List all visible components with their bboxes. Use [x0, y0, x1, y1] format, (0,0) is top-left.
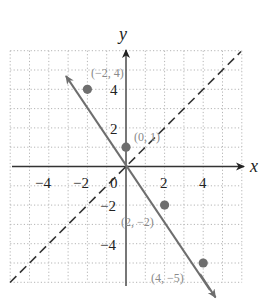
point-4-neg5	[199, 258, 208, 267]
tick-y-neg4: −4	[100, 237, 116, 253]
tick-x-neg4: −4	[35, 175, 51, 191]
solid-line-lower-arrow	[200, 274, 216, 298]
tick-x-neg2: −2	[73, 175, 89, 191]
tick-y-2: 2	[110, 121, 118, 137]
label-point-0-1: (0, 1)	[134, 130, 160, 144]
coordinate-plane-figure: y x −4 −2 0 2 4 4 2 −2 −4 (−2, 4) (0, 1)…	[0, 0, 268, 302]
x-axis-label: x	[249, 156, 258, 176]
tick-y-4: 4	[110, 82, 118, 98]
graph-canvas: y x −4 −2 0 2 4 4 2 −2 −4 (−2, 4) (0, 1)…	[0, 0, 268, 302]
label-point-neg2-4: (−2, 4)	[91, 66, 124, 80]
label-point-2-neg2: (2, −2)	[121, 215, 154, 229]
y-axis-label: y	[117, 24, 127, 44]
tick-x-4: 4	[199, 175, 207, 191]
point-0-1	[121, 143, 130, 152]
tick-y-neg2: −2	[100, 198, 116, 214]
tick-origin: 0	[110, 175, 118, 191]
point-2-neg2	[160, 201, 169, 210]
label-point-4-neg5: (4, −5)	[151, 271, 184, 285]
tick-x-2: 2	[160, 175, 168, 191]
point-neg2-4	[83, 85, 92, 94]
